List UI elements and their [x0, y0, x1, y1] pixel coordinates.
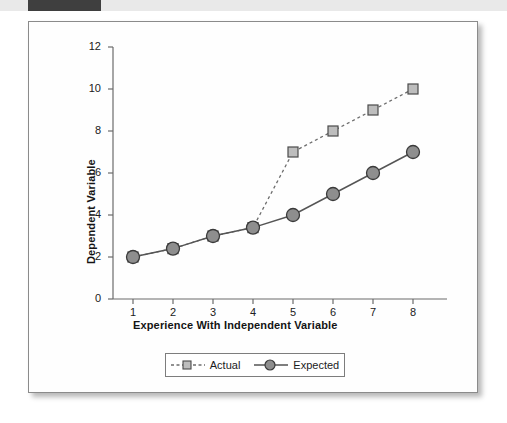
x-tick-8: 8 — [405, 306, 421, 318]
datapoint-actual-x7 — [368, 105, 378, 115]
datapoint-actual-x6 — [328, 126, 338, 136]
y-tick-8: 8 — [81, 124, 101, 136]
datapoint-expected-x2 — [167, 242, 180, 255]
x-tick-6: 6 — [325, 306, 341, 318]
chart-figure-frame: Dependent Variable Experience With Indep… — [28, 21, 478, 393]
datapoint-expected-x5 — [287, 209, 300, 222]
legend-label-actual: Actual — [210, 359, 241, 371]
datapoint-expected-x8 — [407, 146, 420, 159]
y-tick-0: 0 — [81, 292, 101, 304]
datapoint-expected-x4 — [247, 221, 260, 234]
datapoint-actual-x8 — [408, 84, 418, 94]
plot-canvas: Dependent Variable Experience With Indep… — [29, 22, 479, 394]
header-band — [0, 0, 507, 11]
x-axis-title: Experience With Independent Variable — [133, 319, 338, 331]
x-tick-3: 3 — [205, 306, 221, 318]
legend-marker-square-dashed-icon — [171, 358, 205, 372]
y-tick-4: 4 — [81, 208, 101, 220]
legend-item-actual[interactable]: Actual — [171, 358, 241, 372]
x-tick-4: 4 — [245, 306, 261, 318]
header-band-accent — [28, 0, 101, 11]
chart-legend: Actual Expected — [165, 353, 345, 377]
datapoint-expected-x1 — [127, 251, 140, 264]
y-tick-10: 10 — [81, 82, 101, 94]
legend-label-expected: Expected — [293, 359, 339, 371]
x-tick-7: 7 — [365, 306, 381, 318]
datapoint-expected-x7 — [367, 167, 380, 180]
legend-marker-circle-solid-icon — [254, 358, 288, 372]
x-tick-1: 1 — [125, 306, 141, 318]
legend-item-expected[interactable]: Expected — [254, 358, 339, 372]
y-tick-12: 12 — [81, 40, 101, 52]
datapoint-expected-x6 — [327, 188, 340, 201]
x-tick-2: 2 — [165, 306, 181, 318]
datapoint-actual-x5 — [288, 147, 298, 157]
datapoint-expected-x3 — [207, 230, 220, 243]
x-tick-5: 5 — [285, 306, 301, 318]
y-tick-6: 6 — [81, 166, 101, 178]
y-tick-2: 2 — [81, 250, 101, 262]
